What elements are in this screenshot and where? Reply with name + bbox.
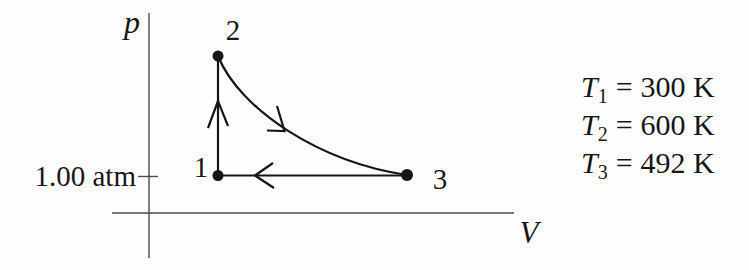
temperature-row-2: T2=600 K [581,106,715,144]
temperature-equals: = [616,108,633,141]
temperature-symbol: T [581,108,598,141]
temperature-value: 600 K [641,108,715,141]
state-2-label: 2 [226,14,241,46]
temperature-symbol: T [581,146,598,179]
temperature-subscript: 1 [598,85,608,107]
temperature-list: T1=300 K T2=600 K T3=492 K [581,68,715,182]
pv-diagram-figure: p V 1.00 atm 1 2 3 T1=300 K T2=600 K T3=… [0,0,749,270]
temperature-equals: = [616,70,633,103]
pressure-tick-label: 1.00 atm [35,160,137,192]
state-2-dot [213,51,224,62]
state-1-label: 1 [194,151,209,183]
temperature-equals: = [616,146,633,179]
temperature-row-3: T3=492 K [581,144,715,182]
temperature-subscript: 2 [598,123,608,145]
v-axis-label: V [520,215,542,250]
state-3-dot [401,169,413,181]
temperature-subscript: 3 [598,161,608,183]
p-axis-label: p [122,4,140,40]
process-2-3-curve [218,56,407,175]
state-3-label: 3 [433,163,448,195]
temperature-symbol: T [581,70,598,103]
temperature-value: 300 K [641,70,715,103]
temperature-row-1: T1=300 K [581,68,715,106]
state-1-dot [213,170,224,181]
temperature-value: 492 K [641,146,715,179]
